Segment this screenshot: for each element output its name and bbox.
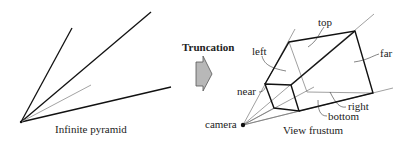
label-bottom: bottom <box>328 110 360 122</box>
infinite-pyramid <box>20 12 171 123</box>
figure: Infinite pyramid Truncation top left far… <box>0 0 413 144</box>
truncation-arrow-icon <box>196 56 212 91</box>
label-left: left <box>252 45 267 57</box>
infinite-pyramid-caption: Infinite pyramid <box>55 123 127 135</box>
label-near: near <box>237 85 256 97</box>
view-frustum <box>241 14 393 127</box>
label-far: far <box>380 47 393 59</box>
truncation-label: Truncation <box>182 41 234 53</box>
label-top: top <box>318 16 333 28</box>
view-frustum-caption: View frustum <box>283 124 344 136</box>
label-camera: camera <box>205 118 237 130</box>
diagram-canvas: Infinite pyramid Truncation top left far… <box>0 0 413 144</box>
